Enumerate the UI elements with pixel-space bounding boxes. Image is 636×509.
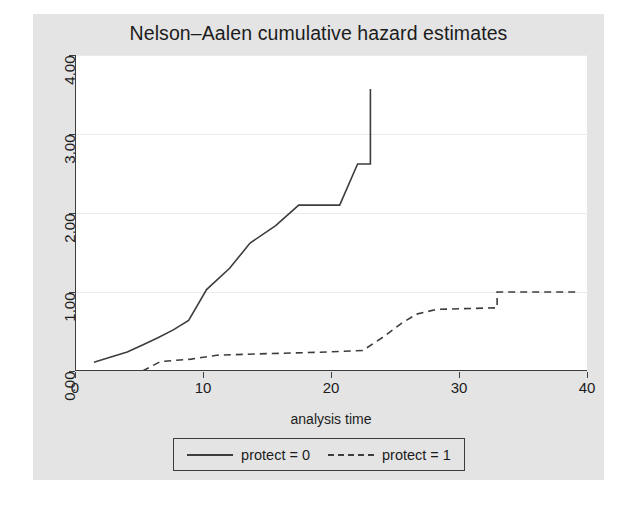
chart-title: Nelson–Aalen cumulative hazard estimates [33, 22, 604, 45]
x-tick-label: 20 [309, 380, 353, 395]
series-line-2 [143, 292, 578, 371]
x-tick-mark [75, 372, 76, 378]
y-tick-mark [69, 55, 75, 56]
x-tick-mark [587, 372, 588, 378]
x-tick-mark [331, 372, 332, 378]
x-tick-mark [459, 372, 460, 378]
stata-graph-figure: Nelson–Aalen cumulative hazard estimates… [33, 14, 604, 480]
plot-area [75, 55, 587, 371]
legend-label: protect = 0 [241, 447, 310, 463]
y-tick-mark [69, 292, 75, 293]
x-tick-label: 0 [53, 380, 97, 395]
gridlines [76, 56, 588, 372]
plot-svg [76, 55, 588, 371]
legend-entry-2: protect = 1 [328, 447, 451, 463]
legend-key-solid-icon [187, 454, 233, 456]
x-tick-label: 30 [437, 380, 481, 395]
x-axis-title: analysis time [75, 411, 587, 427]
series-line-1 [94, 89, 370, 362]
legend-entry-1: protect = 0 [187, 447, 310, 463]
legend-label: protect = 1 [382, 447, 451, 463]
x-tick-mark [203, 372, 204, 378]
x-tick-label: 10 [181, 380, 225, 395]
legend-key-dashed-icon [328, 454, 374, 456]
y-tick-mark [69, 134, 75, 135]
chart-legend: protect = 0protect = 1 [173, 438, 465, 471]
legend-entries: protect = 0protect = 1 [174, 439, 464, 470]
y-tick-mark [69, 213, 75, 214]
series-layer [94, 89, 578, 371]
x-tick-label: 40 [565, 380, 609, 395]
y-axis-tick-labels: 0.001.002.003.004.00 [33, 14, 69, 480]
